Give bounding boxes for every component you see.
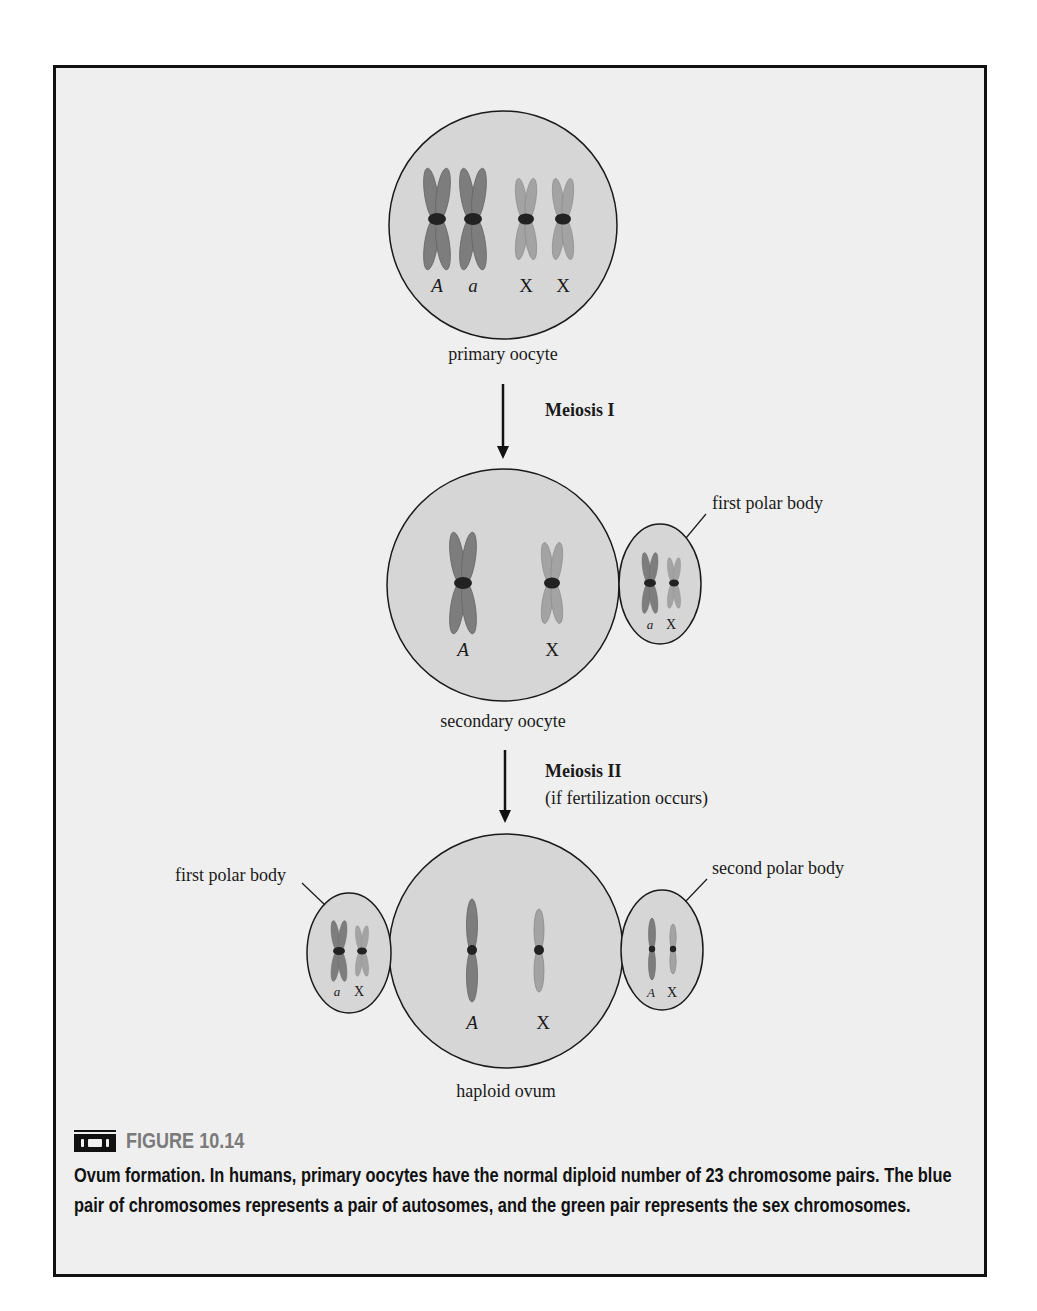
primary-oocyte-label: primary oocyte <box>448 344 557 364</box>
primary-oocyte-cell <box>389 111 617 339</box>
polar-body-cell <box>619 524 701 644</box>
sex-chromosome-label: X <box>536 1012 550 1033</box>
figure-caption-block: FIGURE 10.14 Ovum formation. In humans, … <box>74 1128 974 1220</box>
meiosis-1-arrow: Meiosis I <box>497 384 615 459</box>
first-polar-body-1: a X first polar body <box>619 493 823 644</box>
figure-number: FIGURE 10.14 <box>126 1128 244 1154</box>
sex-chromosome-label: X <box>666 617 676 632</box>
sex-chromosome-label: X <box>545 639 559 660</box>
primary-oocyte: A a X X primary oocyte <box>389 111 617 364</box>
second-polar-body: A X second polar body <box>621 858 844 1010</box>
chromosome-X <box>670 924 676 974</box>
sex-chromosome-label: X <box>519 275 533 296</box>
sex-chromosome-label: X <box>556 275 570 296</box>
allele-label: a <box>647 617 654 632</box>
first-polar-body-label: first polar body <box>175 865 286 885</box>
leader-line <box>686 514 706 538</box>
meiosis-2-arrow: Meiosis II (if fertilization occurs) <box>499 750 708 823</box>
haploid-ovum-label: haploid ovum <box>456 1081 556 1101</box>
allele-label: A <box>429 275 443 296</box>
chromosome-X <box>534 909 544 992</box>
first-polar-body-label: first polar body <box>712 493 823 513</box>
polar-body-cell <box>621 890 703 1010</box>
meiosis-1-label: Meiosis I <box>545 400 615 420</box>
ovum-formation-diagram: A a X X primary oocyte Meiosis I A X sec… <box>0 0 1037 1311</box>
secondary-oocyte-label: secondary oocyte <box>440 711 565 731</box>
secondary-oocyte: A X secondary oocyte <box>387 469 619 731</box>
chromosome-A <box>467 899 478 1002</box>
secondary-oocyte-cell <box>387 469 619 701</box>
polar-body-cell <box>307 893 391 1013</box>
allele-label: A <box>464 1012 478 1033</box>
leader-line <box>686 879 707 901</box>
figure-heading: FIGURE 10.14 <box>74 1128 974 1154</box>
allele-label: A <box>646 985 655 1000</box>
leader-line <box>302 883 325 905</box>
first-polar-body-2: a X first polar body <box>175 865 391 1013</box>
meiosis-2-sublabel: (if fertilization occurs) <box>545 788 708 809</box>
allele-label: a <box>468 275 478 296</box>
ovum-cell <box>389 834 623 1068</box>
allele-label: A <box>455 639 469 660</box>
allele-label: a <box>334 984 341 999</box>
chromosome-A <box>649 918 656 980</box>
sex-chromosome-label: X <box>354 984 364 999</box>
haploid-ovum: A X haploid ovum <box>389 834 623 1101</box>
videotape-icon[interactable] <box>74 1130 116 1152</box>
meiosis-2-label: Meiosis II <box>545 761 622 781</box>
second-polar-body-label: second polar body <box>712 858 844 878</box>
figure-caption: Ovum formation. In humans, primary oocyt… <box>74 1160 962 1220</box>
sex-chromosome-label: X <box>667 985 677 1000</box>
